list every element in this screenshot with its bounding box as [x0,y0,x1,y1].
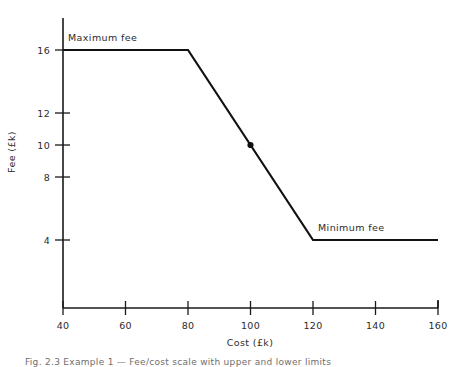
marked-data-point [247,142,253,148]
y-tick-label-12: 12 [28,108,50,119]
y-tick-label-4: 4 [28,235,50,246]
x-tick-label-100: 100 [241,320,260,331]
x-tick-label-120: 120 [303,320,322,331]
y-tick-label-10: 10 [28,140,50,151]
annotation-minimum-fee: Minimum fee [318,222,384,233]
x-tick-label-40: 40 [57,320,70,331]
x-axis-title: Cost (£k) [227,337,274,348]
y-axis-title: Fee (£k) [6,131,17,173]
figure-caption: Fig. 2.3 Example 1 — Fee/cost scale with… [25,357,355,367]
x-tick-label-140: 140 [366,320,385,331]
x-tick-label-80: 80 [182,320,195,331]
annotation-maximum-fee: Maximum fee [68,32,137,43]
y-tick-label-16: 16 [28,45,50,56]
y-tick-label-8: 8 [28,172,50,183]
x-tick-label-60: 60 [119,320,132,331]
x-tick-label-160: 160 [428,320,447,331]
